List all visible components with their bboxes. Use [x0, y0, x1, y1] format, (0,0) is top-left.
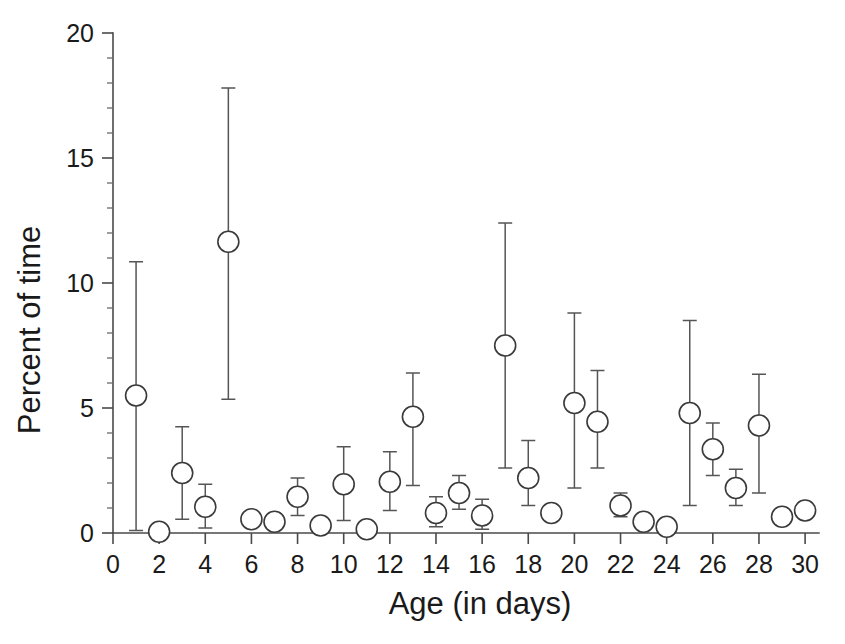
data-point-marker [172, 463, 193, 484]
x-axis-title: Age (in days) [389, 586, 572, 621]
data-point-group [149, 521, 170, 542]
data-point-marker [126, 385, 147, 406]
data-point-marker [610, 495, 631, 516]
y-tick-label: 10 [66, 269, 94, 297]
x-tick-label: 14 [422, 550, 450, 578]
data-point-marker [241, 509, 262, 530]
y-axis-title: Percent of time [12, 226, 47, 434]
y-tick-label: 0 [80, 519, 94, 547]
x-tick-label: 10 [330, 550, 358, 578]
x-tick-label: 26 [699, 550, 727, 578]
data-point-group [241, 509, 262, 530]
data-point-marker [287, 486, 308, 507]
x-tick-label: 2 [152, 550, 166, 578]
x-tick-label: 0 [106, 550, 120, 578]
data-point-marker [402, 406, 423, 427]
data-point-marker [795, 500, 816, 521]
x-tick-label: 8 [291, 550, 305, 578]
x-tick-label: 20 [560, 550, 588, 578]
y-tick-label: 5 [80, 394, 94, 422]
data-point-marker [656, 516, 677, 537]
x-tick-label: 22 [607, 550, 635, 578]
data-point-group [310, 515, 331, 536]
y-tick-label: 15 [66, 144, 94, 172]
x-tick-label: 16 [468, 550, 496, 578]
data-point-marker [587, 411, 608, 432]
data-point-marker [541, 503, 562, 524]
data-point-group [795, 500, 816, 521]
chart-background [0, 0, 845, 644]
x-tick-label: 30 [791, 550, 819, 578]
x-tick-label: 28 [745, 550, 773, 578]
data-point-marker [218, 231, 239, 252]
data-point-marker [495, 335, 516, 356]
data-point-marker [149, 521, 170, 542]
data-point-marker [679, 403, 700, 424]
x-tick-label: 24 [653, 550, 681, 578]
data-point-marker [633, 511, 654, 532]
data-point-marker [333, 474, 354, 495]
data-point-marker [264, 511, 285, 532]
data-point-marker [564, 393, 585, 414]
data-point-marker [449, 483, 470, 504]
x-tick-label: 6 [244, 550, 258, 578]
data-point-marker [772, 506, 793, 527]
data-point-marker [425, 503, 446, 524]
data-point-group [356, 519, 377, 540]
x-tick-label: 18 [514, 550, 542, 578]
data-point-marker [195, 496, 216, 517]
data-point-group [541, 503, 562, 524]
data-point-marker [356, 519, 377, 540]
data-point-group [772, 506, 793, 527]
x-tick-label: 12 [376, 550, 404, 578]
chart-figure: 05101520 024681012141618202224262830 Age… [0, 0, 845, 644]
data-point-marker [379, 471, 400, 492]
data-point-marker [310, 515, 331, 536]
y-tick-label: 20 [66, 19, 94, 47]
data-point-group [264, 511, 285, 532]
data-point-marker [518, 468, 539, 489]
data-point-marker [472, 505, 493, 526]
data-point-marker [725, 478, 746, 499]
scatter-plot-with-error-bars: 05101520 024681012141618202224262830 Age… [0, 0, 845, 644]
data-point-marker [748, 415, 769, 436]
x-tick-label: 4 [198, 550, 212, 578]
data-point-group [633, 511, 654, 532]
data-point-group [656, 516, 677, 537]
data-point-marker [702, 439, 723, 460]
